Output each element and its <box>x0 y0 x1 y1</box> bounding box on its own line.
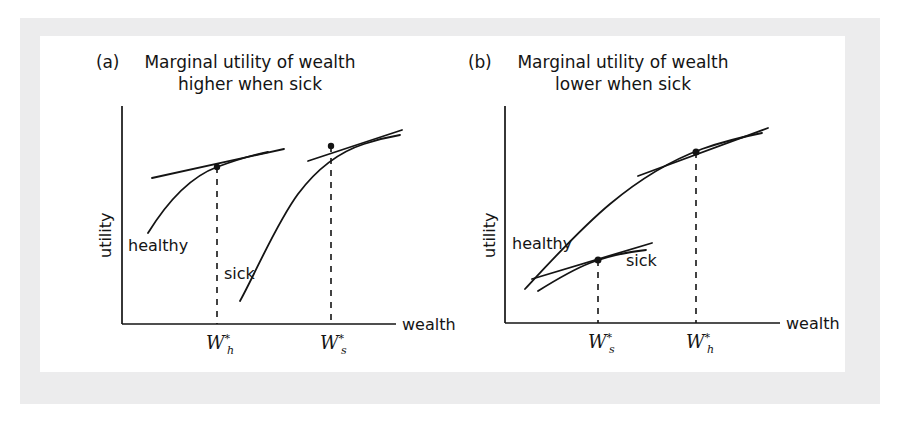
panel-a-tick-ws: W*s <box>320 332 347 353</box>
panel-a-sick-tangent <box>308 130 402 161</box>
panel-b-healthy-tangent <box>638 128 768 176</box>
figure-root: (a) Marginal utility of wealth higher wh… <box>0 0 905 422</box>
panel-b-tick-wh: W*h <box>686 331 714 352</box>
panel-a-sick-label: sick <box>224 264 255 283</box>
panel-b-tick-ws: W*s <box>588 331 615 352</box>
panel-a-tick-ws-sub: s <box>341 344 347 357</box>
panel-a-plot <box>40 36 450 372</box>
panel-b-y-axis-label: utility <box>480 213 499 259</box>
panel-b-tick-wh-sub: h <box>707 343 714 356</box>
panel-b-tick-ws-sub: s <box>609 343 615 356</box>
panel-a-y-axis-label: utility <box>96 213 115 259</box>
panel-a-tick-wh-sub: h <box>227 344 234 357</box>
panel-b-sick-label: sick <box>626 251 657 270</box>
panel-b: (b) Marginal utility of wealth lower whe… <box>450 36 845 372</box>
panel-a-healthy-curve <box>148 152 268 233</box>
panel-a-tick-wh: W*h <box>206 332 234 353</box>
panel-b-healthy-label: healthy <box>512 234 572 253</box>
panel-a-sick-curve <box>240 135 400 301</box>
panel-a-healthy-tangent <box>152 149 284 178</box>
panel-a-x-axis-label: wealth <box>402 315 456 334</box>
panel-b-x-axis-label: wealth <box>786 314 840 333</box>
panel-a-healthy-label: healthy <box>128 236 188 255</box>
panel-a: (a) Marginal utility of wealth higher wh… <box>40 36 450 372</box>
